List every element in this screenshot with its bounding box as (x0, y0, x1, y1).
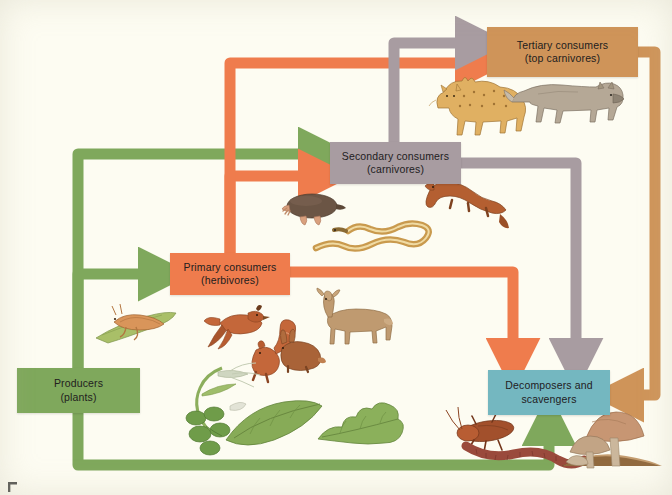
organism-deer (317, 288, 393, 344)
node-producers-line2: (plants) (54, 391, 103, 404)
organism-bobcat (429, 78, 526, 136)
node-primary-line1: Primary consumers (184, 261, 277, 274)
organism-mole (282, 194, 346, 225)
node-producers[interactable]: Producers (plants) (17, 368, 140, 413)
arrow-primary-to-decomposers (290, 272, 513, 362)
node-primary-consumers[interactable]: Primary consumers (herbivores) (170, 253, 290, 295)
organism-mushrooms (562, 412, 662, 468)
organism-oak-leaf (318, 403, 403, 444)
node-tertiary-line1: Tertiary consumers (517, 39, 608, 52)
organism-grasshopper (96, 304, 176, 343)
node-secondary-line1: Secondary consumers (342, 150, 449, 163)
node-tertiary-consumers[interactable]: Tertiary consumers (top carnivores) (487, 27, 638, 77)
node-secondary-consumers[interactable]: Secondary consumers (carnivores) (330, 142, 461, 184)
organism-garter-snake (316, 223, 429, 248)
organism-weasel (425, 182, 509, 228)
food-web-figure: Tertiary consumers (top carnivores) Seco… (0, 0, 672, 495)
node-secondary-line2: (carnivores) (342, 163, 449, 176)
arrow-tertiary-to-decomposers (620, 52, 655, 395)
node-decomposers-line1: Decomposers and (505, 379, 592, 392)
node-decomposers-line2: scavengers (505, 393, 592, 406)
node-tertiary-line2: (top carnivores) (517, 52, 608, 65)
node-decomposers[interactable]: Decomposers and scavengers (488, 370, 610, 415)
node-producers-line1: Producers (54, 377, 103, 390)
node-primary-line2: (herbivores) (184, 274, 277, 287)
